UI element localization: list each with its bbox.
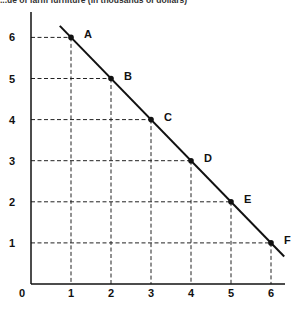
data-point [148,117,154,123]
x-tick-label: 3 [148,287,154,299]
y-tick-label: 6 [9,31,15,43]
y-tick-label: 4 [9,114,16,126]
data-point [268,240,274,246]
point-label: B [124,70,132,82]
data-point [188,158,194,164]
origin-label: 0 [19,287,25,299]
demand-line [60,26,284,257]
y-tick-label: 3 [9,155,15,167]
point-label: A [84,28,92,40]
y-tick-label: 5 [9,73,15,85]
point-label: D [204,152,212,164]
point-label: C [164,111,172,123]
x-tick-label: 1 [68,287,74,299]
y-tick-label: 2 [9,196,15,208]
x-tick-label: 6 [268,287,274,299]
point-label: E [244,193,251,205]
data-point [68,35,74,41]
chart-plot: ABCDEF1234560123456 [0,0,305,318]
x-tick-label: 4 [188,287,195,299]
x-tick-label: 2 [108,287,114,299]
y-tick-label: 1 [9,237,15,249]
x-tick-label: 5 [228,287,234,299]
data-point [108,76,114,82]
point-label: F [284,234,291,246]
data-point [228,199,234,205]
